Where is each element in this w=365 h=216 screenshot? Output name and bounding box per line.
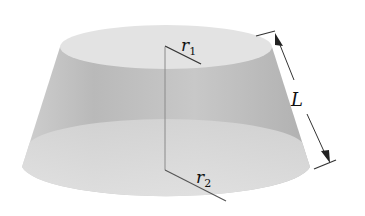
- arrowhead-up-icon: [275, 33, 283, 46]
- slant-bottom-tick: [314, 160, 336, 169]
- slant-top-tick: [256, 31, 275, 36]
- arrowhead-down-icon: [321, 150, 330, 163]
- frustum-bottom-band: [22, 119, 310, 196]
- frustum-diagram: r1 r2 L: [0, 0, 365, 216]
- slant-height-label: L: [290, 89, 303, 110]
